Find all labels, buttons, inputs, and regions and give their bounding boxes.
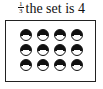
half-shaded-circle-icon [37,44,49,56]
set-box [5,20,96,82]
half-shaded-circle-icon [54,59,66,71]
half-shaded-circle-icon [20,44,32,56]
dot-grid [20,29,84,73]
fraction-denominator: 3 [18,8,24,14]
half-shaded-circle-icon [37,59,49,71]
half-shaded-circle-icon [20,59,32,71]
half-shaded-circle-icon [71,29,83,41]
half-shaded-circle-icon [54,44,66,56]
half-shaded-circle-icon [20,29,32,41]
caption-text: the set is 4 [26,1,86,16]
caption: 1 3 the set is 4 [0,0,103,18]
half-shaded-circle-icon [71,59,83,71]
half-shaded-circle-icon [71,44,83,56]
fraction: 1 3 [18,1,24,14]
half-shaded-circle-icon [54,29,66,41]
half-shaded-circle-icon [37,29,49,41]
